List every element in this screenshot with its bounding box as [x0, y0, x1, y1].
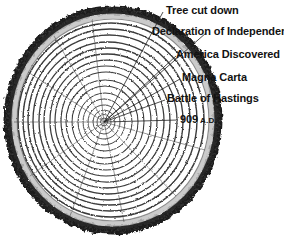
label-909-ad-year: 909	[180, 113, 198, 125]
label-battle-of-hastings-text: Battle of Hastings	[167, 92, 259, 104]
label-909-ad-era: A.D.	[198, 116, 217, 125]
label-declaration-of-independence-text: Declaration of Independen	[152, 25, 284, 37]
annotation-labels: Tree cut down Declaration of Independen …	[0, 0, 284, 236]
label-magna-carta: Magna Carta	[182, 71, 247, 83]
label-magna-carta-text: Magna Carta	[182, 71, 247, 83]
label-battle-of-hastings: Battle of Hastings	[167, 92, 259, 104]
label-america-discovered: America Discovered	[176, 48, 280, 60]
label-tree-cut-down: Tree cut down	[166, 4, 239, 16]
tree-ring-figure: Tree cut down Declaration of Independen …	[0, 0, 284, 236]
label-tree-cut-down-text: Tree cut down	[166, 4, 239, 16]
label-declaration-of-independence: Declaration of Independen	[152, 25, 284, 37]
label-america-discovered-text: America Discovered	[176, 48, 280, 60]
label-909-ad: 909A.D.	[180, 113, 217, 127]
